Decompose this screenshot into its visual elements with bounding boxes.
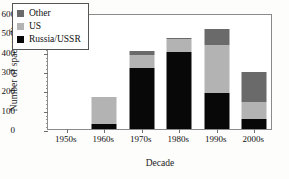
bar-segment-other[interactable] (167, 38, 192, 39)
bar-segment-russia-ussr[interactable] (92, 124, 117, 129)
x-axis-tick-mark (179, 129, 180, 133)
y-axis-minor-tick-mark (46, 61, 48, 62)
y-axis-tick-label: 0 (0, 125, 15, 135)
bar-segment-other[interactable] (204, 29, 229, 45)
y-axis-tick-mark (44, 73, 48, 74)
legend-swatch-icon (17, 36, 24, 43)
bar-segment-us[interactable] (92, 97, 117, 125)
legend-item-us[interactable]: US (17, 20, 81, 33)
y-axis-tick-mark (44, 54, 48, 55)
y-axis-tick-label: 100 (0, 106, 15, 116)
y-axis-minor-tick-mark (46, 100, 48, 101)
legend-item-russia-ussr[interactable]: Russia/USSR (17, 33, 81, 46)
bar-1960s[interactable] (92, 97, 117, 129)
x-axis-tick-mark (67, 129, 68, 133)
y-axis-minor-tick-mark (46, 69, 48, 70)
y-axis-tick-mark (44, 92, 48, 93)
legend-item-other[interactable]: Other (17, 7, 81, 20)
legend-swatch-icon (17, 23, 24, 30)
y-axis-minor-tick-mark (46, 88, 48, 89)
x-axis-title: Decade (47, 158, 273, 168)
bar-segment-us[interactable] (129, 55, 154, 69)
y-axis-tick-mark (44, 131, 48, 132)
x-axis-tick-mark (254, 129, 255, 133)
bar-1980s[interactable] (167, 38, 192, 129)
y-axis-minor-tick-mark (46, 116, 48, 117)
bar-2000s[interactable] (242, 72, 267, 129)
legend-item-label: Russia/USSR (29, 35, 81, 45)
x-axis-tick-mark (142, 129, 143, 133)
bar-segment-us[interactable] (204, 45, 229, 93)
x-axis-tick-mark (104, 129, 105, 133)
bar-segment-other[interactable] (242, 72, 267, 102)
y-axis-minor-tick-mark (46, 81, 48, 82)
bar-segment-us[interactable] (167, 39, 192, 52)
y-axis-tick-mark (44, 112, 48, 113)
y-axis-minor-tick-mark (46, 96, 48, 97)
y-axis-minor-tick-mark (46, 127, 48, 128)
y-axis-tick-label: 300 (0, 67, 15, 77)
bar-segment-russia-ussr[interactable] (204, 93, 229, 129)
y-axis-tick-label: 200 (0, 86, 15, 96)
bar-segment-other[interactable] (129, 51, 154, 55)
bar-1990s[interactable] (204, 29, 229, 129)
y-axis-minor-tick-mark (46, 104, 48, 105)
y-axis-minor-tick-mark (46, 58, 48, 59)
y-axis-minor-tick-mark (46, 108, 48, 109)
legend-swatch-icon (17, 10, 24, 17)
bar-segment-us[interactable] (242, 102, 267, 119)
x-axis-tick-mark (217, 129, 218, 133)
x-axis-tick-label: 2000s (230, 134, 276, 144)
chart-legend: OtherUSRussia/USSR (12, 3, 89, 50)
y-axis-minor-tick-mark (46, 123, 48, 124)
bar-segment-russia-ussr[interactable] (167, 52, 192, 129)
y-axis-minor-tick-mark (46, 119, 48, 120)
y-axis-minor-tick-mark (46, 77, 48, 78)
y-axis-minor-tick-mark (46, 65, 48, 66)
legend-item-label: US (29, 22, 41, 32)
bar-segment-russia-ussr[interactable] (129, 68, 154, 129)
legend-item-label: Other (29, 9, 51, 19)
bar-1970s[interactable] (129, 51, 154, 129)
chart-figure: Number of spacecraft Decade 010020030040… (0, 0, 289, 179)
y-axis-minor-tick-mark (46, 85, 48, 86)
bar-segment-russia-ussr[interactable] (242, 119, 267, 129)
